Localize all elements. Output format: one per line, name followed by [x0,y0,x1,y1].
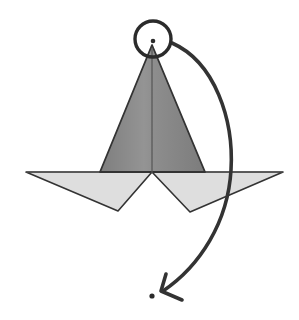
geometry-figure [0,0,299,320]
diagram-canvas [0,0,299,320]
apex-vertex-dot [151,39,156,44]
target-point-dot [149,293,154,298]
